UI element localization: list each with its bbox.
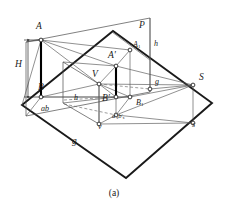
label-plane-V: V [92,70,98,80]
label-line-h-left: h [74,94,78,102]
vertex-A [39,38,43,42]
label-point-A-prime: A' [108,51,116,61]
label-line-g-mid: g [155,78,159,86]
label-point-v: v [98,123,102,131]
vertex-V [97,82,101,86]
label-trace-ab: ab [41,105,49,113]
vertex-B-prime [114,95,118,99]
figure-caption: (a) [0,188,228,198]
label-point-B1: B1 [136,99,143,108]
label-plane-P: P [139,21,145,31]
label-point-A1: A1 [133,41,140,50]
vertex-A-prime [114,64,118,68]
vertex-A1 [128,48,132,52]
label-line-h-right: h [154,40,158,48]
label-point-s: s [192,121,195,129]
vertex-B [39,95,43,99]
vertex-S [191,83,195,87]
label-height-H: H [15,60,22,70]
label-line-g-bottom: g [72,137,77,147]
figure-container: A H B ab P A1 h A' V g S h B' B1 a'xb'x … [0,0,228,215]
projection-plane-P [26,18,150,116]
vertex-g-mid [148,87,152,91]
label-point-B: B [38,83,44,93]
geometry-drawing [0,0,228,215]
vertex-B1 [128,95,132,99]
label-point-B-prime: B' [102,94,110,104]
ground-plane [22,31,212,178]
label-point-S: S [199,73,204,83]
label-point-A: A [36,22,42,32]
label-points-ax-bx: a'xb'x [112,113,125,120]
